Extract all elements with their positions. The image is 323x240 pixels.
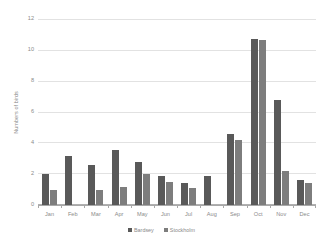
y-tick-label: 12 [28,16,34,22]
bar [88,165,95,205]
bar [274,100,281,205]
y-tick-label: 6 [31,109,34,115]
bar [251,39,258,206]
bar [96,190,103,205]
legend-entry[interactable]: Bardsey [128,227,154,233]
x-axis-label: Oct [247,209,270,219]
x-tick-mark [108,205,109,208]
bar [189,188,196,205]
legend-entry[interactable]: Stockholm [164,227,195,233]
bar-chart: Numbers of birds 024681012 JanFebMarAprM… [0,0,323,240]
bar-group [293,20,316,205]
x-tick-mark [131,205,132,208]
x-axis-label: Jan [38,209,61,219]
plot-area: 024681012 [38,20,316,205]
x-tick-mark [38,205,39,208]
x-axis-label: Apr [108,209,131,219]
x-axis-label: Nov [270,209,293,219]
bar [259,40,266,205]
x-tick-mark [270,205,271,208]
bars-layer [38,20,316,205]
bar [204,176,211,205]
legend-label: Bardsey [134,227,154,233]
x-axis-label: Jul [177,209,200,219]
x-tick-mark [200,205,201,208]
chart-legend: BardseyStockholm [0,224,323,236]
bar-group [108,20,131,205]
y-axis-title: Numbers of birds [11,20,21,205]
bar-group [61,20,84,205]
bar [297,180,304,205]
x-tick-mark [315,205,316,208]
bar [50,190,57,205]
y-tick-label: 10 [28,47,34,53]
bar [158,176,165,205]
x-axis-label: Dec [293,209,316,219]
bar-group [131,20,154,205]
bar-group [247,20,270,205]
legend-label: Stockholm [170,227,195,233]
bar [181,183,188,205]
x-axis-label: Feb [61,209,84,219]
bar-group [223,20,246,205]
bar-group [38,20,61,205]
bar [305,183,312,205]
x-axis-label: May [131,209,154,219]
y-tick-label: 8 [31,78,34,84]
bar [143,174,150,205]
bar-group [154,20,177,205]
x-tick-mark [247,205,248,208]
legend-swatch-icon [128,228,132,232]
x-axis-label: Sep [223,209,246,219]
x-axis-label: Aug [200,209,223,219]
bar-group [200,20,223,205]
legend-swatch-icon [164,228,168,232]
bar [42,174,49,205]
bar [235,140,242,205]
x-tick-mark [177,205,178,208]
x-axis-labels: JanFebMarAprMayJunJulAugSepOctNovDec [38,209,316,219]
bar [120,187,127,206]
x-tick-mark [61,205,62,208]
x-axis-label: Mar [84,209,107,219]
bar [112,150,119,206]
bar-group [270,20,293,205]
x-tick-mark [84,205,85,208]
x-tick-mark [293,205,294,208]
bar-group [177,20,200,205]
bar [227,134,234,205]
x-axis-label: Jun [154,209,177,219]
bar [282,171,289,205]
y-tick-label: 0 [31,202,34,208]
bar [166,182,173,205]
y-tick-label: 2 [31,171,34,177]
y-tick-label: 4 [31,140,34,146]
x-tick-mark [154,205,155,208]
bar [135,162,142,205]
bar [65,156,72,205]
x-tick-mark [223,205,224,208]
bar-group [84,20,107,205]
